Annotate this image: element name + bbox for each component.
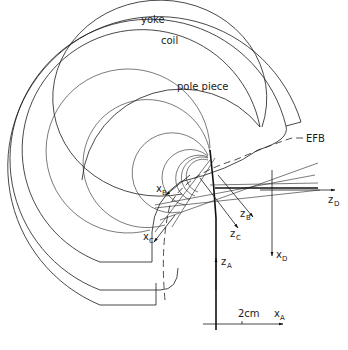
coil-label: coil bbox=[161, 35, 178, 46]
svg-text:z: z bbox=[230, 228, 235, 239]
x-b-axis bbox=[166, 175, 190, 195]
svg-text:z: z bbox=[221, 256, 226, 267]
axis-label-xb: x B bbox=[156, 183, 167, 197]
axis-label-zc: z C bbox=[230, 228, 241, 242]
axis-label-zb: z B bbox=[240, 208, 251, 222]
efb-label: EFB bbox=[306, 133, 325, 144]
yoke-outline bbox=[8, 17, 301, 305]
z-b-axis bbox=[218, 175, 253, 217]
diagram-canvas: yoke coil pole piece EFB 2cm x A z A x B… bbox=[0, 0, 348, 350]
svg-text:C: C bbox=[236, 234, 241, 242]
scale-label: 2cm bbox=[238, 308, 260, 319]
coordinate-axes bbox=[154, 170, 335, 324]
efb-boundary bbox=[163, 138, 305, 300]
svg-text:D: D bbox=[334, 200, 339, 208]
svg-text:A: A bbox=[280, 314, 285, 322]
magnet-diagram: yoke coil pole piece EFB 2cm x A z A x B… bbox=[0, 0, 348, 350]
svg-text:B: B bbox=[246, 214, 251, 222]
z-c-axis bbox=[200, 178, 238, 228]
svg-text:z: z bbox=[240, 208, 245, 219]
pole-piece-label: pole piece bbox=[177, 81, 229, 92]
svg-text:B: B bbox=[162, 189, 167, 197]
yoke-label: yoke bbox=[141, 14, 165, 25]
field-contours bbox=[46, 69, 210, 233]
axis-label-zd: z D bbox=[328, 194, 339, 208]
pole-piece-outline bbox=[53, 0, 267, 196]
svg-text:A: A bbox=[227, 262, 232, 270]
svg-text:C: C bbox=[149, 237, 154, 245]
axis-label-za: z A bbox=[221, 256, 232, 270]
axis-label-xa: x A bbox=[274, 308, 285, 322]
svg-text:D: D bbox=[282, 255, 287, 263]
axis-label-xd: x D bbox=[276, 249, 287, 263]
svg-text:z: z bbox=[328, 194, 333, 205]
